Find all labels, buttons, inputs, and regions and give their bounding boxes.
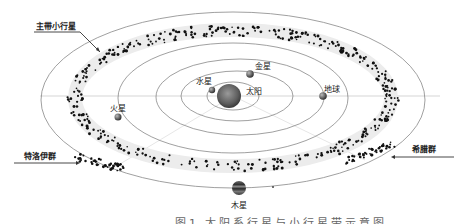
main-belt-callout-label: 主带小行星	[36, 20, 76, 31]
mercury-icon	[209, 87, 215, 93]
jupiter-label: 木星	[231, 199, 247, 210]
main-belt-arrowhead	[96, 47, 100, 52]
solar-system-diagram	[0, 0, 467, 224]
trojan-asteroid-cluster	[74, 153, 125, 171]
orbit-marker	[272, 186, 274, 188]
venus-label: 金星	[255, 60, 271, 71]
mercury-label: 水星	[196, 75, 212, 86]
sun-label: 太阳	[246, 85, 262, 96]
greeks-arrowhead	[391, 155, 395, 159]
mars-icon	[115, 114, 122, 121]
venus-icon	[246, 70, 254, 78]
earth-label: 地球	[324, 83, 340, 94]
main-belt-pointer	[34, 32, 100, 52]
jupiter-icon	[232, 181, 246, 195]
greeks-callout-label: 希腊群	[412, 143, 436, 154]
sun-icon	[217, 84, 241, 108]
figure-caption: 图1 太阳系行星与小行星带示意图	[175, 214, 388, 224]
trojans-callout-label: 特洛伊群	[24, 150, 56, 161]
mars-label: 火星	[110, 102, 126, 113]
